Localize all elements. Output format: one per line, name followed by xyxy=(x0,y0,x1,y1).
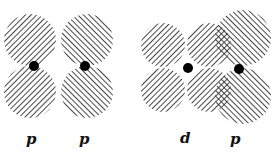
nucleus-p xyxy=(234,64,244,74)
label-d: d xyxy=(180,129,191,147)
nucleus-d xyxy=(183,63,193,73)
label-p-right: p xyxy=(230,130,241,148)
label-p-left-1: p xyxy=(26,130,37,148)
nucleus-left-1 xyxy=(29,61,39,71)
nucleus-left-2 xyxy=(80,61,90,71)
label-p-left-2: p xyxy=(79,130,90,148)
